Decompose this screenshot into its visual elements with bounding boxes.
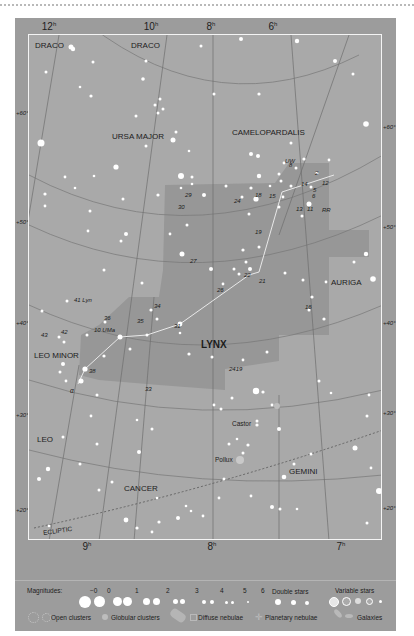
constellation-ursa-major: URSA MAJOR [112, 132, 164, 141]
legend-mag-6: 6 [261, 587, 265, 594]
star-label: 13 [296, 206, 303, 212]
star-label: 31 [174, 323, 181, 329]
constellation-draco-1: DRACO [35, 41, 64, 50]
star-label: 16 [305, 304, 312, 310]
constellation-leo: LEO [37, 435, 53, 444]
legend-mag-2: 2 [166, 587, 170, 594]
dec-label-left-60: +60° [16, 110, 29, 116]
mag-dot-2b [153, 598, 160, 605]
mag-dot-0 [94, 596, 105, 607]
star-label: 41 Lyn [74, 297, 92, 303]
sky-map-graphics [29, 35, 382, 540]
mag-dot-1a [113, 597, 122, 606]
legend-mag-5: 5 [243, 587, 247, 594]
galaxy-icon [333, 608, 343, 619]
star-label: 6 [312, 193, 315, 199]
star-label: 2419 [229, 366, 242, 372]
open-cluster-small-icon [42, 613, 51, 622]
legend-magnitudes-label: Magnitudes: [27, 587, 62, 594]
star-label: 19 [255, 229, 262, 235]
mag-dot-3b [180, 599, 185, 604]
dec-label-right-20: +20° [383, 505, 396, 511]
ra-label-7h: 7h [337, 541, 346, 552]
star-label: 8 [289, 162, 292, 168]
star-label: 33 [145, 386, 152, 392]
legend-diffuse-nebulae: Diffuse nebulae [198, 614, 243, 621]
ra-label-9h: 9h [83, 541, 92, 552]
constellation-lynx: LYNX [201, 339, 227, 350]
star-label: 10 UMa [94, 327, 115, 333]
double-star-dot-3 [305, 601, 309, 605]
double-star-dot-2 [291, 600, 296, 605]
star-label: 36 [104, 315, 111, 321]
pollux-star [236, 456, 244, 464]
constellation-cancer: CANCER [124, 484, 158, 493]
star-label: 26 [217, 287, 224, 293]
ra-label-8h-bottom: 8h [208, 541, 217, 552]
globular-cluster-icon [102, 614, 108, 620]
mag-dot-5b [231, 601, 234, 604]
ra-label-10h: 10h [144, 21, 158, 32]
constellation-leo-minor: LEO MINOR [34, 351, 79, 360]
planetary-nebula-icon: ✛ [255, 612, 263, 622]
variable-star-dot-1 [329, 597, 339, 607]
mag-dot-6 [247, 601, 249, 603]
mag-dot-1b [123, 597, 132, 606]
star-label: 35 [137, 318, 144, 324]
dec-label-right-60: +60° [383, 124, 396, 130]
star-label: 12 [322, 180, 329, 186]
legend-planetary-nebulae: Planetary nebulae [265, 614, 317, 621]
star-label: 43 [41, 332, 48, 338]
star-label: 42 [61, 329, 68, 335]
star-name-pollux: Pollux [215, 456, 233, 463]
mag-dot-5a [225, 601, 228, 604]
legend-mag-1: 1 [135, 587, 139, 594]
star-label: 34 [154, 303, 161, 309]
diffuse-nebula-icon [169, 607, 187, 624]
star-label: 29 [185, 192, 192, 198]
star-label: 14 [301, 181, 308, 187]
dotted-top-rule [0, 0, 414, 6]
constellation-auriga: AURIGA [331, 278, 362, 287]
star-label: 2 [315, 170, 318, 176]
sky-map[interactable]: DRACO DRACO URSA MAJOR CAMELOPARDALIS AU… [28, 34, 382, 540]
variable-star-dot-3 [355, 598, 361, 604]
legend-variable-stars: Variable stars [335, 587, 374, 594]
dec-label-right-40: +40° [383, 320, 396, 326]
variable-star-dot-5 [379, 600, 382, 603]
diffuse-nebula-small-icon [190, 614, 197, 621]
star-label: 27 [190, 258, 197, 264]
star-label: 24 [234, 198, 241, 204]
double-star-dot-1 [275, 599, 281, 605]
mag-dot-3a [173, 599, 178, 604]
mag-dot-4b [210, 600, 214, 604]
legend-mag-3: 3 [195, 587, 199, 594]
mag-dot-2a [143, 598, 150, 605]
star-label: 18 [255, 192, 262, 198]
mag-dot-minus0 [79, 596, 91, 608]
open-cluster-icon [28, 612, 39, 623]
legend-open-clusters: Open clusters [51, 614, 91, 621]
legend-mag-minus0: −0 [90, 587, 97, 594]
variable-star-dot-2 [342, 597, 351, 606]
dec-label-left-50: +50° [16, 219, 29, 225]
ra-label-6h: 6h [269, 21, 278, 32]
mag-dot-4a [202, 600, 206, 604]
star-label: 11 [307, 206, 313, 212]
star-label: 22 [244, 272, 251, 278]
star-label: 21 [259, 278, 266, 284]
star-name-alpha: α [70, 387, 74, 394]
lynx-region [79, 163, 369, 390]
star-label: RR [322, 207, 331, 213]
star-label: 15 [269, 193, 276, 199]
legend: Magnitudes: −0 0 1 2 3 4 5 6 Double star… [15, 580, 396, 631]
constellation-draco-2: DRACO [131, 41, 160, 50]
star-name-castor: Castor [232, 420, 251, 427]
constellation-gemini: GEMINI [289, 467, 317, 476]
dec-label-left-20: +20° [16, 507, 29, 513]
galaxy-small-icon [345, 614, 353, 618]
legend-galaxies: Galaxies [357, 614, 382, 621]
legend-mag-0: 0 [107, 587, 111, 594]
legend-double-stars: Double stars [272, 588, 309, 595]
star-label: 30 [178, 204, 185, 210]
